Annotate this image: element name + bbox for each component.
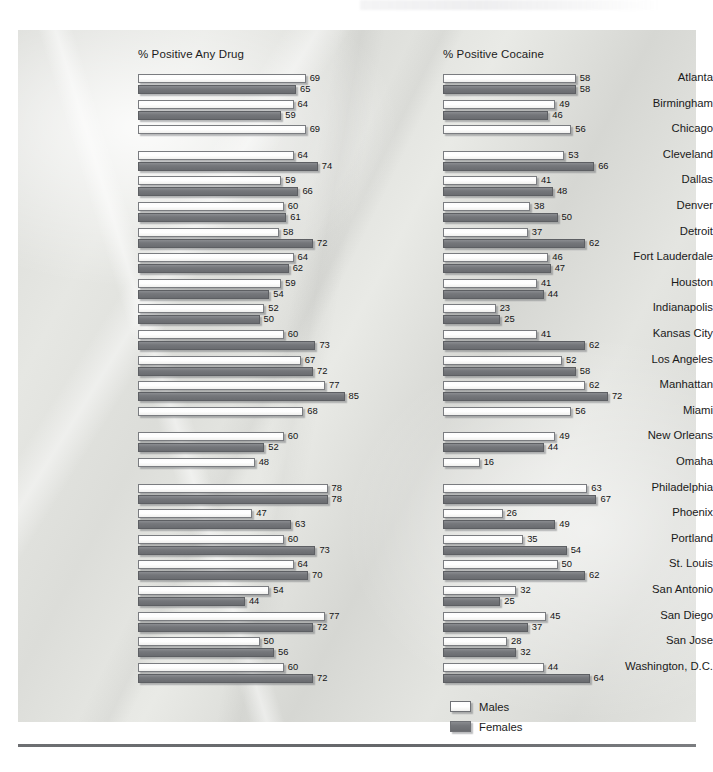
bar-value-label: 61 <box>290 212 300 222</box>
bar-female <box>443 674 590 683</box>
bar-male <box>443 509 503 518</box>
city-label: San Diego <box>585 609 713 621</box>
bar-male <box>443 535 523 544</box>
bar-female <box>138 85 296 94</box>
bar-male <box>138 125 306 134</box>
bar-value-label: 44 <box>548 662 558 672</box>
bar-male <box>138 330 284 339</box>
bar-value-label: 77 <box>329 611 339 621</box>
city-label: New Orleans <box>585 429 713 441</box>
bar-female <box>443 443 544 452</box>
chart-page: % Positive Any Drug % Positive Cocaine 6… <box>0 0 713 772</box>
bar-male <box>138 458 255 467</box>
bar-female <box>443 111 548 120</box>
bar-value-label: 59 <box>285 278 295 288</box>
bar-value-label: 85 <box>349 391 359 401</box>
bar-male <box>138 356 301 365</box>
bar-male <box>138 535 284 544</box>
bar-value-label: 53 <box>568 150 578 160</box>
bar-male <box>443 74 576 83</box>
bar-male <box>138 560 294 569</box>
bar-male <box>443 176 537 185</box>
city-label: Cleveland <box>585 148 713 160</box>
bar-female <box>138 111 281 120</box>
bar-value-label: 62 <box>589 340 599 350</box>
bar-female <box>138 213 286 222</box>
bar-female <box>443 85 576 94</box>
bar-value-label: 37 <box>532 227 542 237</box>
bar-value-label: 37 <box>532 622 542 632</box>
bar-male <box>443 407 571 416</box>
city-label: Washington, D.C. <box>585 660 713 672</box>
bar-value-label: 49 <box>559 431 569 441</box>
city-label: Miami <box>585 404 713 416</box>
bar-value-label: 60 <box>288 662 298 672</box>
bar-value-label: 44 <box>548 442 558 452</box>
bar-female <box>443 187 553 196</box>
bar-value-label: 48 <box>259 457 269 467</box>
bar-female <box>443 264 551 273</box>
bar-female <box>138 341 315 350</box>
bar-male <box>138 637 260 646</box>
bar-female <box>138 623 313 632</box>
bar-value-label: 46 <box>552 252 562 262</box>
chart-legend: Males Females <box>450 698 522 738</box>
chart-title-cocaine: % Positive Cocaine <box>443 48 544 60</box>
bar-male <box>443 304 496 313</box>
bar-value-label: 64 <box>298 150 308 160</box>
bar-value-label: 66 <box>302 186 312 196</box>
bar-male <box>443 356 562 365</box>
bar-male <box>443 253 548 262</box>
bar-male <box>138 253 294 262</box>
bar-female <box>443 597 500 606</box>
bar-value-label: 50 <box>562 212 572 222</box>
bar-female <box>443 648 516 657</box>
city-label: Dallas <box>585 173 713 185</box>
bar-value-label: 41 <box>541 329 551 339</box>
bar-value-label: 44 <box>249 596 259 606</box>
bar-value-label: 25 <box>504 596 514 606</box>
bar-male <box>138 586 269 595</box>
bar-value-label: 62 <box>589 570 599 580</box>
city-label: Chicago <box>585 122 713 134</box>
bar-value-label: 64 <box>298 99 308 109</box>
bar-value-label: 67 <box>305 355 315 365</box>
bar-value-label: 58 <box>283 227 293 237</box>
bar-female <box>443 520 555 529</box>
bar-value-label: 64 <box>298 252 308 262</box>
city-label: Detroit <box>585 225 713 237</box>
bar-value-label: 50 <box>562 559 572 569</box>
bar-female <box>138 546 315 555</box>
bar-female <box>443 341 585 350</box>
bar-value-label: 41 <box>541 278 551 288</box>
bar-male <box>138 228 279 237</box>
bar-value-label: 52 <box>566 355 576 365</box>
bar-value-label: 62 <box>293 263 303 273</box>
city-label: St. Louis <box>585 557 713 569</box>
bar-value-label: 72 <box>317 622 327 632</box>
bar-value-label: 50 <box>264 636 274 646</box>
bar-value-label: 46 <box>552 110 562 120</box>
bar-male <box>443 330 537 339</box>
bar-value-label: 73 <box>319 340 329 350</box>
bar-female <box>138 290 269 299</box>
chart-title-any-drug: % Positive Any Drug <box>138 48 244 60</box>
bar-value-label: 68 <box>307 406 317 416</box>
bar-female <box>138 367 313 376</box>
bar-value-label: 62 <box>589 238 599 248</box>
bar-male <box>138 279 281 288</box>
bar-value-label: 60 <box>288 431 298 441</box>
bar-male <box>138 304 264 313</box>
bar-value-label: 35 <box>527 534 537 544</box>
bar-male <box>138 484 328 493</box>
bar-value-label: 78 <box>332 494 342 504</box>
bar-male <box>443 381 585 390</box>
bar-male <box>138 74 306 83</box>
bar-value-label: 47 <box>555 263 565 273</box>
bar-value-label: 54 <box>273 289 283 299</box>
bar-value-label: 54 <box>273 585 283 595</box>
bar-male <box>138 100 294 109</box>
bar-value-label: 45 <box>550 611 560 621</box>
city-label: Houston <box>585 276 713 288</box>
city-label: Los Angeles <box>585 353 713 365</box>
